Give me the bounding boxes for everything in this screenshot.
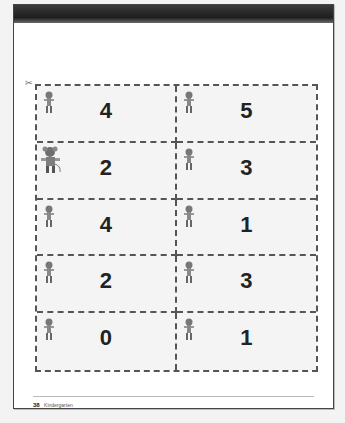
number-card[interactable]: 5 bbox=[177, 86, 317, 143]
page-header-band bbox=[14, 5, 333, 23]
cut-out-card-grid: 4 5 2 3 4 1 2 3 bbox=[35, 84, 318, 372]
card-number: 2 bbox=[37, 155, 175, 181]
worksheet-page: ✂ 4 5 2 3 4 1 2 bbox=[13, 4, 334, 409]
page-footer: 38 Kindergarten bbox=[33, 402, 73, 408]
number-card[interactable]: 0 bbox=[37, 313, 177, 370]
card-number: 5 bbox=[177, 98, 317, 124]
number-card[interactable]: 3 bbox=[177, 143, 317, 200]
card-number: 0 bbox=[37, 325, 175, 351]
number-card[interactable]: 2 bbox=[37, 256, 177, 313]
number-card[interactable]: 2 bbox=[37, 143, 177, 200]
number-card[interactable]: 3 bbox=[177, 256, 317, 313]
number-card[interactable]: 1 bbox=[177, 200, 317, 257]
card-number: 4 bbox=[37, 98, 175, 124]
card-number: 1 bbox=[177, 212, 317, 238]
page-number: 38 bbox=[33, 402, 40, 408]
grade-label: Kindergarten bbox=[44, 402, 73, 408]
number-card[interactable]: 4 bbox=[37, 86, 177, 143]
footer-divider bbox=[33, 396, 314, 397]
card-number: 2 bbox=[37, 268, 175, 294]
card-number: 1 bbox=[177, 325, 317, 351]
number-card[interactable]: 4 bbox=[37, 200, 177, 257]
card-number: 3 bbox=[177, 268, 317, 294]
number-card[interactable]: 1 bbox=[177, 313, 317, 370]
card-number: 4 bbox=[37, 212, 175, 238]
card-number: 3 bbox=[177, 155, 317, 181]
